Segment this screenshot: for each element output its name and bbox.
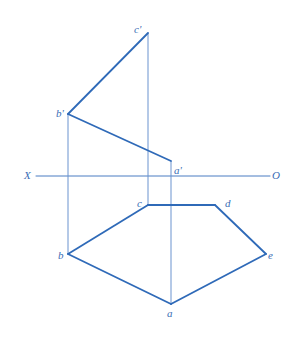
edge-e-a — [171, 254, 266, 304]
point-label-b: b — [58, 250, 64, 261]
point-label-c: c — [137, 198, 142, 209]
projection-lines — [68, 33, 171, 304]
axis-label-o: O — [272, 170, 280, 181]
point-label-a-prime: a' — [174, 165, 182, 176]
edge-a-b — [68, 254, 171, 304]
point-label-d: d — [225, 198, 231, 209]
point-label-c-prime: c' — [134, 24, 141, 35]
top-view-pentagon — [68, 205, 266, 304]
front-view-lines — [68, 33, 171, 161]
orthographic-projection-diagram — [0, 0, 295, 340]
edge-d-e — [215, 205, 266, 254]
edge-b_prime-a_prime — [68, 114, 171, 161]
edge-c_prime-b_prime — [68, 33, 148, 114]
point-label-b-prime: b' — [56, 108, 64, 119]
edge-b-c — [68, 205, 148, 254]
axis-label-x: X — [24, 170, 31, 181]
point-label-e: e — [268, 250, 273, 261]
point-label-a: a — [167, 308, 173, 319]
